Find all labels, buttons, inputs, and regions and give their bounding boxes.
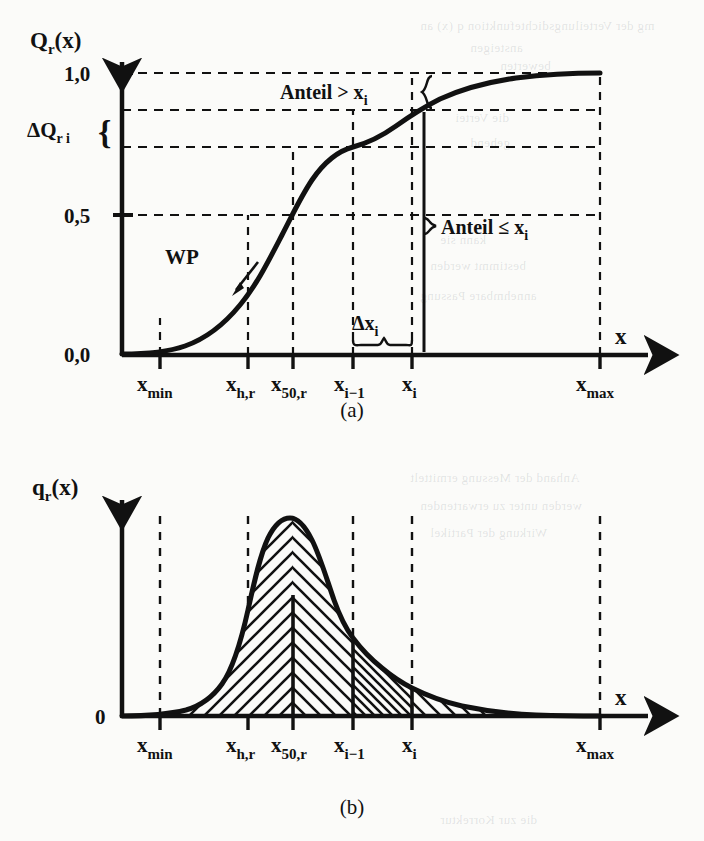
- x-tick-label-xim1: xi−1: [334, 372, 365, 401]
- x-tick-label-xhr-b: xh,r: [226, 733, 256, 762]
- anteil-above-annotation: Anteil > xi: [280, 76, 432, 108]
- hatch-region-1: [122, 500, 293, 720]
- x-axis-title-a: x: [615, 324, 627, 349]
- x-tick-label-xim1-b: xi−1: [334, 733, 365, 762]
- y-tick-label-zero-b: 0: [95, 705, 106, 729]
- caption-b: (b): [0, 795, 704, 820]
- hatch-region-3: [353, 500, 412, 720]
- axes: [122, 62, 648, 355]
- y-axis-title-a: Qr(x): [30, 28, 81, 57]
- x-tick-labels-b: xmin xh,r x50,r xi−1 xi xmax: [137, 733, 614, 762]
- x-tick-labels-a: xmin xh,r x50,r xi−1 xi xmax: [137, 372, 614, 401]
- y-axis-title-b: qr(x): [32, 475, 78, 504]
- wp-label: WP: [165, 245, 199, 269]
- figure-root: mg der Verteilungsdichtefunktion q (x) a…: [0, 0, 704, 841]
- y-tick-label-3: 0,0: [64, 343, 90, 367]
- x-tick-label-xi-b: xi: [402, 733, 417, 762]
- delta-x-brace: Δxi: [352, 312, 412, 345]
- chart-b-density-distribution: qr(x) 0 x xmin xh,r x50,r xi−1 xi xmax: [0, 440, 704, 840]
- svg-text:Anteil > xi: Anteil > xi: [280, 81, 368, 108]
- hatch-region-4: [412, 500, 604, 720]
- density-hatched-areas: [122, 500, 604, 720]
- x-tick-label-xmax: xmax: [576, 372, 614, 401]
- y-tick-label-2: 0,5: [64, 204, 90, 228]
- x-axis-title-b: x: [615, 685, 627, 710]
- chart-a-cumulative-distribution: WP Anteil > xi Anteil ≤ xi Δxi Qr(x): [0, 0, 704, 420]
- x-tick-label-xmin-b: xmin: [137, 733, 173, 762]
- x-tick-label-xmin: xmin: [137, 372, 173, 401]
- x-tick-label-xhr: xh,r: [226, 372, 256, 401]
- delta-q-brace: {: [98, 114, 111, 151]
- x-tick-label-xi: xi: [402, 372, 417, 401]
- caption-a: (a): [0, 398, 704, 423]
- wp-pointer-arrow: [232, 262, 258, 296]
- x-tick-label-x50r: x50,r: [271, 372, 307, 401]
- svg-text:Anteil ≤ xi: Anteil ≤ xi: [441, 216, 528, 243]
- svg-text:Δxi: Δxi: [352, 312, 379, 339]
- x-tick-label-x50r-b: x50,r: [271, 733, 307, 762]
- delta-q-label: ΔQr i: [27, 118, 70, 146]
- hatch-region-2: [293, 500, 353, 720]
- y-tick-label-1: 1,0: [64, 62, 90, 86]
- x-tick-label-xmax-b: xmax: [576, 733, 614, 762]
